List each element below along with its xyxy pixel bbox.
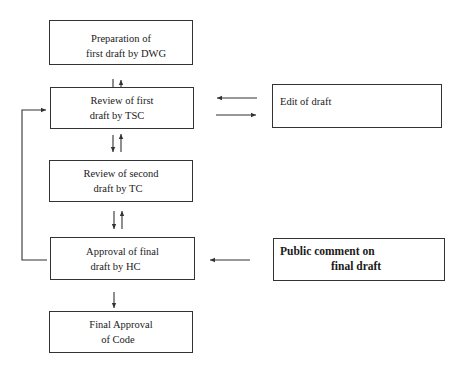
node-label-line: Review of second <box>83 166 158 181</box>
node-label-line: first draft by DWG <box>76 46 166 61</box>
node-label-line: Public comment on <box>280 244 375 259</box>
node-label-line: Preparation of <box>91 31 151 46</box>
node-label-line: draft by TSC <box>90 108 145 123</box>
node-preparation-first-draft: Preparation of first draft by DWG <box>49 20 193 65</box>
node-public-comment: Public comment on final draft <box>273 238 445 281</box>
node-label-line: Review of first <box>91 93 154 108</box>
arrow-approval-loop-to-review1 <box>22 110 47 260</box>
node-approval-final-draft: Approval of final draft by HC <box>50 237 195 280</box>
node-label-line: Final Approval <box>89 317 152 332</box>
node-label-line: Approval of final <box>86 244 159 259</box>
node-edit-of-draft: Edit of draft <box>272 84 442 128</box>
node-final-approval-code: Final Approval of Code <box>49 311 193 353</box>
node-review-second-draft: Review of second draft by TC <box>49 160 193 202</box>
node-label-line: draft by TC <box>94 181 143 196</box>
node-review-first-draft: Review of first draft by TSC <box>50 87 194 129</box>
node-label-line: of Code <box>101 332 135 347</box>
node-label-line: draft by HC <box>90 259 140 274</box>
node-label-line: final draft <box>280 259 381 274</box>
node-label-line: Edit of draft <box>280 94 331 109</box>
